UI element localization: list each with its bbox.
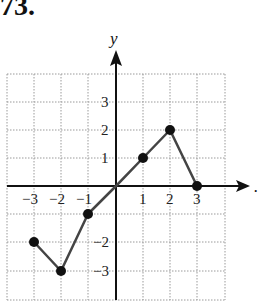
point-1-1 <box>138 153 148 163</box>
svg-text:−3: −3 <box>93 263 109 279</box>
graph: y . −3 −2 −1 1 2 3 3 2 1 −2 −3 <box>0 0 260 304</box>
svg-text:−1: −1 <box>76 191 92 207</box>
point-neg3-neg2 <box>29 237 39 247</box>
svg-text:2: 2 <box>166 191 174 207</box>
point-neg2-neg3 <box>56 266 66 276</box>
svg-text:−2: −2 <box>93 234 109 250</box>
x-tick-labels: −3 −2 −1 1 2 3 <box>22 191 201 207</box>
point-2-2 <box>165 125 175 135</box>
y-axis-label: y <box>108 29 118 48</box>
svg-text:−2: −2 <box>49 191 65 207</box>
svg-text:1: 1 <box>101 150 109 166</box>
point-3-0 <box>192 181 202 191</box>
svg-text:3: 3 <box>101 94 109 110</box>
x-axis-label: . <box>254 177 258 196</box>
svg-text:−3: −3 <box>22 191 38 207</box>
svg-text:3: 3 <box>193 191 201 207</box>
svg-text:2: 2 <box>101 122 109 138</box>
point-neg1-neg1 <box>83 209 93 219</box>
svg-text:1: 1 <box>139 191 147 207</box>
